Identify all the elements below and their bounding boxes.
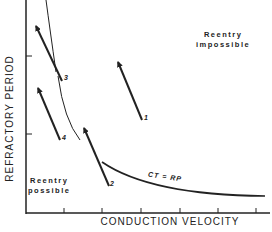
y-axis-label: REFRACTORY PERIOD (1, 38, 17, 198)
arrow-2 (84, 128, 109, 186)
arrow-2-label: 2 (110, 180, 114, 187)
threshold-curve-upper (46, 0, 56, 72)
arrow-1 (118, 62, 142, 120)
arrow-4-label: 4 (62, 134, 66, 141)
arrow-3 (36, 26, 62, 81)
threshold-curve-middle (58, 76, 80, 140)
arrow-3-label: 3 (64, 74, 68, 81)
x-axis-label: CONDUCTION VELOCITY (70, 216, 270, 227)
x-axis (26, 208, 270, 213)
arrow-4 (38, 88, 60, 140)
region-label-impossible: Reentry impossible (196, 30, 250, 50)
refractory-conduction-diagram: REFRACTORY PERIOD CONDUCTION VELOCITY Re… (0, 0, 272, 232)
region-label-possible: Reentry possible (28, 176, 70, 196)
arrow-1-label: 1 (144, 114, 148, 121)
ct-rp-curve (102, 162, 265, 196)
